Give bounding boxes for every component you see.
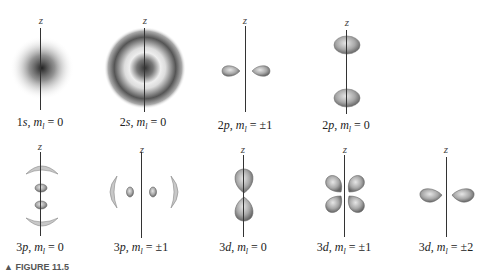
z-axis-label: z <box>38 140 42 152</box>
z-axis-label: z <box>243 14 247 26</box>
orbital-caption: 3d, ml = 0 <box>219 240 267 256</box>
z-axis-line <box>243 155 244 237</box>
orbital-caption: 2s, ml = 0 <box>120 115 166 131</box>
figure-caption: ▲ FIGURE 11.5 <box>4 262 69 272</box>
orbital-3p-m0-lobes <box>22 160 62 232</box>
z-axis-label: z <box>343 143 347 155</box>
z-axis-label: z <box>241 143 245 155</box>
orbital-caption: 3p, ml = 0 <box>16 240 64 256</box>
z-axis-label: z <box>39 14 43 26</box>
orbital-3p-m1-lobes <box>105 172 183 212</box>
orbital-caption: 3p, ml = ±1 <box>114 240 168 256</box>
z-axis-line <box>141 152 142 238</box>
z-axis-line <box>346 30 347 114</box>
z-axis-line <box>40 28 41 110</box>
orbital-caption: 3d, ml = ±2 <box>419 240 473 256</box>
z-axis-line <box>344 155 345 237</box>
orbital-caption: 2p, ml = ±1 <box>218 118 272 134</box>
orbital-caption: 3d, ml = ±1 <box>317 240 371 256</box>
z-axis-label: z <box>143 14 147 26</box>
z-axis-line <box>245 26 246 112</box>
z-axis-line <box>40 152 41 236</box>
z-axis-line <box>144 28 145 112</box>
z-axis-label: z <box>444 143 448 155</box>
orbital-caption: 1s, ml = 0 <box>17 115 63 131</box>
z-axis-line <box>446 157 447 237</box>
orbital-caption: 2p, ml = 0 <box>322 118 370 134</box>
orbital-1s-shape <box>10 36 74 100</box>
z-axis-label: z <box>345 16 349 28</box>
